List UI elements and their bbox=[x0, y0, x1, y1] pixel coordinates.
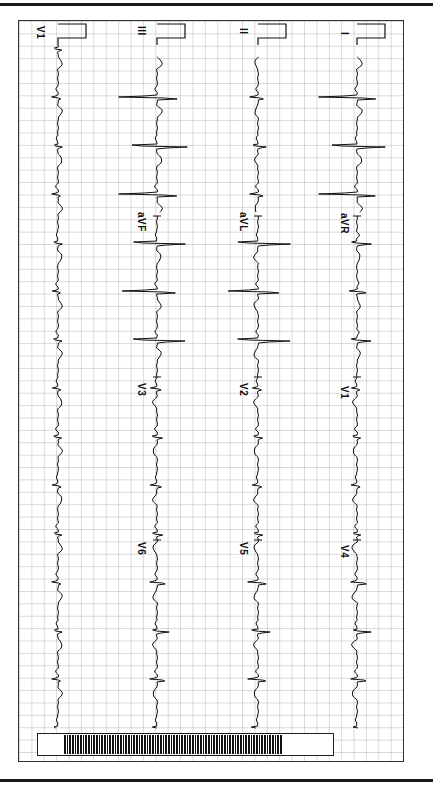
lead-label-avf: aVF bbox=[136, 212, 147, 232]
lead-label-ii: II bbox=[238, 28, 249, 35]
lead-label-avl: aVL bbox=[238, 212, 249, 232]
lead-label-v4: V4 bbox=[339, 545, 350, 558]
lead-label-rhythm-v1: V1 bbox=[35, 26, 46, 39]
lead-label-avr: aVR bbox=[339, 213, 350, 234]
lead-label-v3: V3 bbox=[136, 383, 147, 396]
lead-label-v1: V1 bbox=[339, 386, 350, 399]
lead-label-iii: III bbox=[136, 26, 147, 36]
barcode-bars bbox=[64, 735, 282, 754]
barcode bbox=[37, 733, 334, 756]
lead-label-v5: V5 bbox=[238, 542, 249, 555]
lead-label-i: I bbox=[339, 32, 350, 35]
lead-label-v2: V2 bbox=[238, 383, 249, 396]
lead-label-v6: V6 bbox=[136, 542, 147, 555]
ecg-traces bbox=[0, 0, 433, 786]
